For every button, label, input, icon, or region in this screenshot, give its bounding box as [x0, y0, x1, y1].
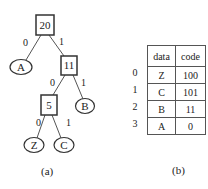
edge-label: 0 — [36, 117, 41, 128]
code-table: data code Z 100 C 101 B 11 A 0 — [147, 45, 206, 135]
cell-code: 101 — [176, 84, 206, 101]
table-row: A 0 — [148, 118, 206, 135]
row-index: 2 — [130, 101, 140, 112]
edge-label: 1 — [59, 36, 64, 47]
caption-b: (b) — [172, 164, 185, 176]
cell-code: 11 — [176, 101, 206, 118]
table-header-row: data code — [148, 46, 206, 67]
row-index: 3 — [130, 118, 140, 129]
cell-data: Z — [148, 67, 176, 84]
row-index: 1 — [130, 84, 140, 95]
cell-code: 0 — [176, 118, 206, 135]
node-label: 11 — [64, 59, 75, 71]
edge-label: 0 — [23, 37, 28, 48]
header-data: data — [148, 46, 176, 67]
node-label: B — [81, 100, 88, 112]
cell-data: A — [148, 118, 176, 135]
edge-label: 0 — [50, 77, 55, 88]
edge-label: 1 — [66, 117, 71, 128]
node-label: Z — [31, 139, 38, 151]
row-index: 0 — [130, 67, 140, 78]
header-code: code — [176, 46, 206, 67]
table-row: C 101 — [148, 84, 206, 101]
cell-data: B — [148, 101, 176, 118]
node-label: A — [17, 61, 25, 73]
node-label: C — [60, 139, 67, 151]
node-label: 5 — [46, 99, 52, 111]
cell-code: 100 — [176, 67, 206, 84]
table-row: B 11 — [148, 101, 206, 118]
edge-5-C — [52, 115, 61, 138]
cell-data: C — [148, 84, 176, 101]
edge-20-A — [26, 35, 41, 60]
node-label: 20 — [40, 19, 52, 31]
edge-label: 1 — [81, 77, 86, 88]
caption-a: (a) — [41, 165, 53, 177]
table-row: Z 100 — [148, 67, 206, 84]
